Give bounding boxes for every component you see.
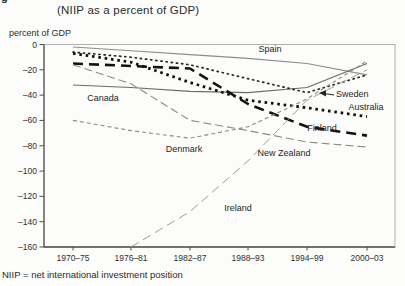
label-canada: Canada <box>87 93 119 103</box>
y-tick-label: –60 <box>23 115 37 125</box>
y-tick-label: 0 <box>32 40 37 50</box>
x-tick-label: 1988–93 <box>231 253 264 263</box>
y-tick-label: –160 <box>18 242 37 252</box>
label-finland: Finland <box>307 123 337 133</box>
y-tick-label: –140 <box>18 217 37 227</box>
series-line-australia <box>73 53 367 116</box>
y-tick-label: –20 <box>23 65 37 75</box>
label-ireland: Ireland <box>224 203 252 213</box>
y-tick-label: –100 <box>18 166 37 176</box>
chart-canvas: 0–20–40–60–80–100–120–140–1601970–751976… <box>0 0 405 286</box>
sweden-arrowhead-icon <box>319 90 326 97</box>
y-tick-label: –40 <box>23 90 37 100</box>
y-tick-label: –120 <box>18 191 37 201</box>
x-tick-label: 2000–03 <box>350 253 383 263</box>
series-line-spain <box>73 47 367 75</box>
footnote: NIIP = net international investment posi… <box>2 269 183 280</box>
y-tick-label: –80 <box>23 141 37 151</box>
label-denmark: Denmark <box>166 144 203 154</box>
label-sweden: Sweden <box>336 89 369 99</box>
x-tick-label: 1976–81 <box>114 253 147 263</box>
x-tick-label: 1982–87 <box>173 253 206 263</box>
figure: g (NIIP as a percent of GDP) percent of … <box>0 0 405 286</box>
plot-border <box>44 45 395 248</box>
series-line-new-zealand <box>73 65 367 147</box>
label-australia: Australia <box>348 102 383 112</box>
label-new-zealand: New Zealand <box>257 148 310 158</box>
series-line-ireland <box>131 70 367 247</box>
x-tick-label: 1970–75 <box>56 253 89 263</box>
label-spain: Spain <box>258 44 281 54</box>
x-tick-label: 1994–99 <box>290 253 323 263</box>
